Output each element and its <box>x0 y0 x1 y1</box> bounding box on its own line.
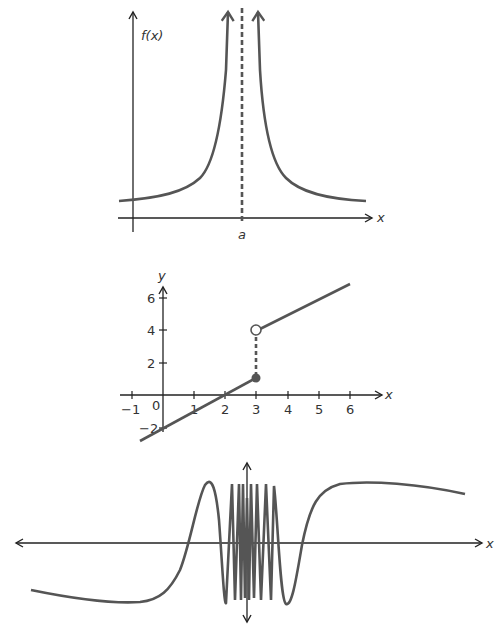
graph-jump: −1 1 2 3 4 5 6 6 4 2 −2 0 y x <box>120 268 393 441</box>
segment-upper <box>260 284 350 329</box>
origin-label: 0 <box>152 398 160 413</box>
asymptote-label: a <box>238 227 246 242</box>
figure-canvas: f(x) x a −1 1 2 3 4 5 6 <box>0 0 504 635</box>
y-tick-labels: 6 4 2 −2 <box>139 291 158 436</box>
x-axis-label: x <box>376 210 385 225</box>
closed-endpoint <box>252 374 261 383</box>
x-tick-label: −1 <box>121 402 140 417</box>
y-tick-label: 4 <box>147 323 155 338</box>
x-tick-label: 6 <box>346 402 354 417</box>
curve-left <box>119 12 228 201</box>
graph-oscillation: x <box>16 463 494 622</box>
graph-asymptote: f(x) x a <box>118 8 385 242</box>
y-axis-label: f(x) <box>141 28 163 43</box>
y-tick-label: 2 <box>147 356 155 371</box>
x-axis-label: x <box>485 536 494 551</box>
x-axis-label: x <box>384 387 393 402</box>
y-axis-label: y <box>157 268 166 283</box>
y-tick-label: 6 <box>147 291 155 306</box>
x-tick-label: 2 <box>221 402 229 417</box>
x-tick-label: 5 <box>315 402 323 417</box>
curve-right <box>258 12 366 201</box>
x-tick-label: 3 <box>252 402 260 417</box>
x-tick-label: 4 <box>284 402 292 417</box>
open-endpoint <box>251 325 261 335</box>
